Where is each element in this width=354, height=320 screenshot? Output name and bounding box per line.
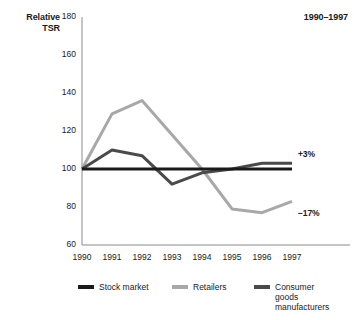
y-tick-label: 100 [52, 164, 76, 173]
legend-item: Consumer goods manufacturers [254, 282, 329, 312]
y-tick-label: 160 [52, 50, 76, 59]
x-tick-label: 1996 [245, 253, 279, 262]
x-tick-label: 1992 [125, 253, 159, 262]
legend-swatch-icon [78, 285, 94, 289]
chart-page: Relative TSR 1990–1997 60801001201401601… [0, 0, 354, 320]
x-tick-label: 1991 [95, 253, 129, 262]
legend-item: Retailers [172, 282, 227, 292]
chart-legend: Stock marketRetailersConsumer goods manu… [0, 279, 354, 320]
plot-area: 6080100120140160180 19901991199219931994… [0, 0, 354, 275]
y-tick-label: 140 [52, 88, 76, 97]
legend-label: Consumer goods manufacturers [275, 282, 329, 312]
annotation-label: +3% [298, 149, 315, 159]
x-tick-label: 1993 [155, 253, 189, 262]
y-tick-label: 80 [52, 202, 76, 211]
series-line-consumer-goods-manufacturers [82, 150, 292, 184]
legend-label: Retailers [193, 282, 227, 292]
series-line-retailers [82, 101, 292, 213]
x-tick-label: 1995 [215, 253, 249, 262]
legend-swatch-icon [172, 285, 188, 289]
x-tick-label: 1990 [65, 253, 99, 262]
legend-swatch-icon [254, 285, 270, 289]
legend-item: Stock market [78, 282, 149, 292]
y-tick-label: 180 [52, 12, 76, 21]
x-tick-label: 1997 [275, 253, 309, 262]
x-tick-label: 1994 [185, 253, 219, 262]
legend-label: Stock market [99, 282, 149, 292]
line-chart-svg [0, 0, 354, 275]
y-tick-label: 120 [52, 126, 76, 135]
annotation-label: −17% [298, 208, 320, 218]
y-tick-label: 60 [52, 240, 76, 249]
